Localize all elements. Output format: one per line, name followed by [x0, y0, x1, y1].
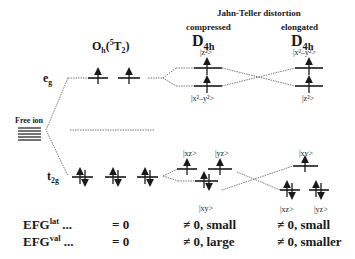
- efg-lat-elongated: ≠ 0, small: [277, 218, 330, 231]
- orbital-label: |xy>: [299, 150, 313, 158]
- free-ion-levels: [18, 128, 41, 140]
- orbital-label: |xy>: [199, 205, 213, 213]
- efg-val-elongated: ≠ 0, smaller: [277, 235, 342, 248]
- orbital-label: |yz>: [215, 150, 229, 158]
- efg-lat-compressed: ≠ 0, small: [183, 218, 236, 231]
- orbital-label: |x²–y²>: [191, 95, 214, 103]
- orbital-label: |xz>: [183, 150, 197, 158]
- efg-lat-oh: = 0: [112, 218, 129, 231]
- diagram-title: Jahn-Teller distortion: [217, 9, 301, 18]
- splitting-connectors: [46, 68, 295, 190]
- elongated-symmetry-label: D4h: [291, 33, 314, 49]
- elongated-t-arrows: [287, 159, 321, 197]
- compressed-caption: compressed: [186, 23, 231, 32]
- efg-lat-label: EFGlat ...: [23, 218, 72, 231]
- efg-val-label: EFGval ...: [23, 235, 74, 248]
- t2g-label: t2g: [47, 170, 59, 182]
- free-ion-label: Free ion: [15, 117, 43, 125]
- elongated-caption: elongated: [281, 23, 318, 32]
- orbital-label: |x²–y²>: [293, 49, 316, 57]
- orbital-label: |z²>: [302, 95, 314, 103]
- efg-val-compressed: ≠ 0, large: [183, 235, 235, 248]
- oh-symmetry-label: Oh(5T2): [92, 40, 130, 52]
- efg-val-oh: = 0: [112, 235, 129, 248]
- orbital-label: |yz>: [314, 206, 328, 214]
- orbital-label: |z²>: [200, 49, 212, 57]
- eg-label: eg: [43, 72, 52, 84]
- orbital-label: |xz>: [280, 206, 294, 214]
- compressed-symmetry-label: D4h: [192, 33, 215, 49]
- compressed-e-levels: [194, 68, 222, 86]
- compressed-t-arrows: [187, 162, 220, 188]
